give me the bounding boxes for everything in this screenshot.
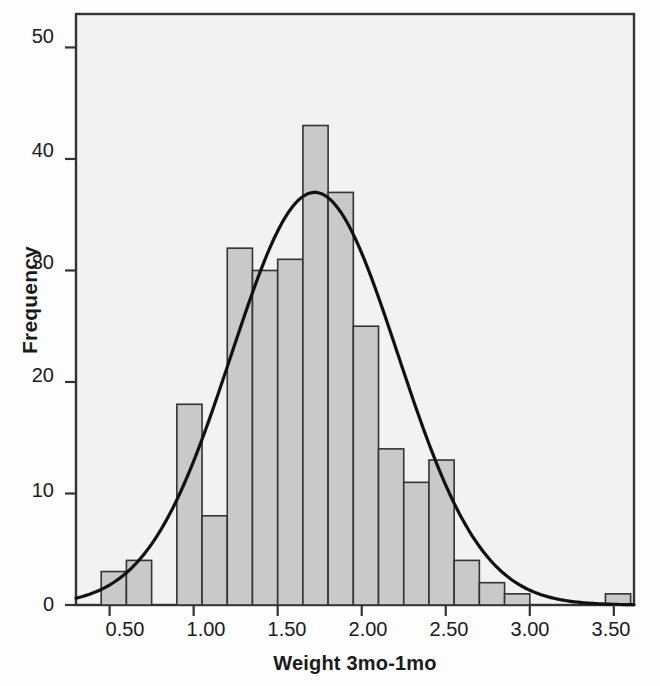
histogram-bar	[202, 516, 227, 605]
histogram-bar	[429, 460, 454, 605]
histogram-bar	[505, 594, 530, 605]
histogram-bar	[278, 259, 303, 605]
histogram-bar	[303, 126, 328, 605]
histogram-bar	[252, 270, 277, 605]
histogram-bar	[177, 404, 202, 605]
histogram-bar	[126, 560, 151, 605]
histogram-bar	[379, 449, 404, 605]
histogram-bar	[353, 326, 378, 605]
histogram-figure: Frequency Weight 3mo-1mo 50 40 30 20 10 …	[0, 0, 660, 686]
histogram-bar	[328, 192, 353, 605]
plot-canvas	[0, 0, 660, 686]
histogram-bar	[404, 482, 429, 605]
histogram-bar	[479, 583, 504, 605]
histogram-bar	[454, 560, 479, 605]
